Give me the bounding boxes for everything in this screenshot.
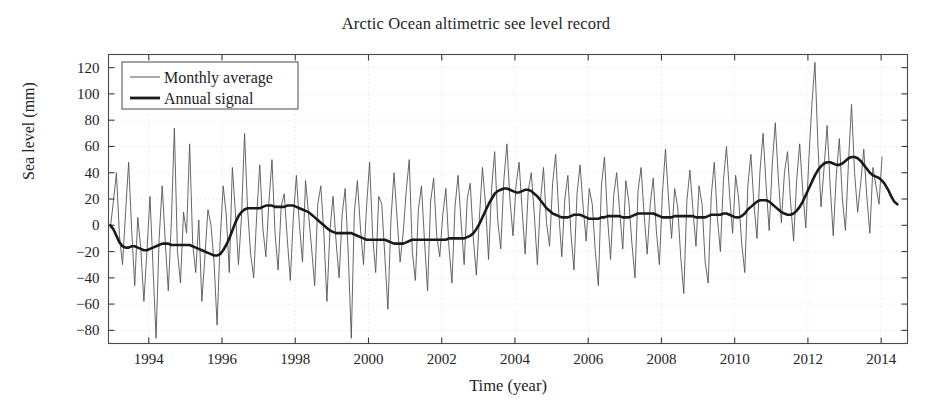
y-tick-label: 60 [85,138,100,154]
y-tick-label: 20 [85,191,100,207]
y-tick-label: 100 [77,86,100,102]
y-tick-label: 40 [85,165,100,181]
x-tick-label: 2012 [793,351,823,367]
legend-label-1: Monthly average [164,69,273,87]
x-tick-label: 1996 [207,351,238,367]
legend-label-2: Annual signal [164,90,254,108]
chart-legend[interactable]: Monthly averageAnnual signal [122,62,298,109]
x-tick-label: 2014 [866,351,897,367]
x-tick-label: 2000 [353,351,383,367]
y-tick-label: −20 [76,244,99,260]
y-tick-label: −60 [76,296,99,312]
series-line [110,157,897,256]
chart-figure: Arctic Ocean altimetric see level record… [0,0,952,418]
x-tick-label: 2010 [720,351,750,367]
y-tick-label: 0 [92,217,100,233]
y-tick-label: −80 [76,322,99,338]
x-tick-label: 1998 [280,351,310,367]
y-tick-label: 120 [77,60,100,76]
x-tick-label: 2002 [427,351,457,367]
x-tick-label: 2004 [500,351,531,367]
x-tick-label: 2006 [573,351,604,367]
x-tick-label: 1994 [134,351,165,367]
x-tick-label: 2008 [646,351,676,367]
y-tick-label: 80 [85,112,100,128]
y-tick-label: −40 [76,270,99,286]
plot-area: 120100806040200−20−40−60−801994199619982… [0,0,952,418]
